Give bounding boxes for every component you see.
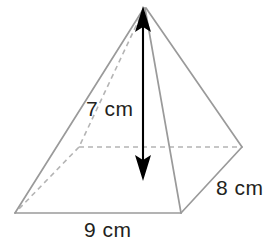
hidden-edge-back-to-front-left: [15, 147, 79, 213]
height-dimension-label: 7 cm: [86, 98, 134, 119]
base-side-dimension-label: 8 cm: [216, 177, 264, 198]
hidden-edge-apex-to-back: [79, 9, 144, 147]
edge-apex-to-front-right: [145, 8, 181, 213]
pyramid-drawing: [0, 0, 267, 247]
pyramid-figure: 7 cm 9 cm 8 cm: [0, 0, 267, 247]
base-front-dimension-label: 9 cm: [84, 219, 132, 240]
edge-apex-to-right: [146, 8, 242, 147]
